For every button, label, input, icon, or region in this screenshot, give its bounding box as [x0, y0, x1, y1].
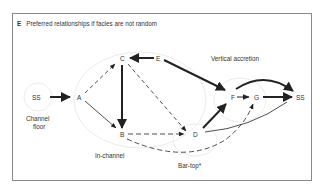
node-d: D: [193, 131, 198, 138]
node-c: C: [120, 55, 125, 62]
region-circles: [24, 52, 266, 156]
node-e: E: [156, 55, 161, 62]
node-f: F: [231, 94, 235, 101]
label-bar-top: Bar-top*: [178, 162, 202, 170]
region-labels: Channel floor In-channel Bar-top* Vertic…: [26, 55, 259, 170]
node-a: A: [77, 94, 82, 101]
facies-diagram: SS A C E B D F G SS Channel floor In-cha…: [0, 0, 327, 193]
node-b: B: [120, 131, 124, 138]
edge-b-g-curve: [127, 104, 253, 152]
edge-a-c: [85, 64, 115, 93]
edge-a-b: [85, 101, 116, 128]
node-g: G: [254, 94, 259, 101]
node-ss-left: SS: [32, 94, 41, 101]
label-in-channel: In-channel: [95, 152, 124, 159]
edge-e-f: [164, 60, 225, 90]
node-ss-right: SS: [296, 94, 305, 101]
bar-top-ellipse: [173, 124, 217, 156]
label-channel-floor-1: Channel: [26, 115, 49, 122]
label-channel-floor-2: floor: [33, 123, 45, 130]
edge-d-ss-curve: [205, 102, 287, 132]
label-vertical-accretion: Vertical accretion: [211, 55, 259, 62]
edge-c-d: [128, 64, 186, 131]
edge-f-ss-curve: [236, 80, 293, 91]
